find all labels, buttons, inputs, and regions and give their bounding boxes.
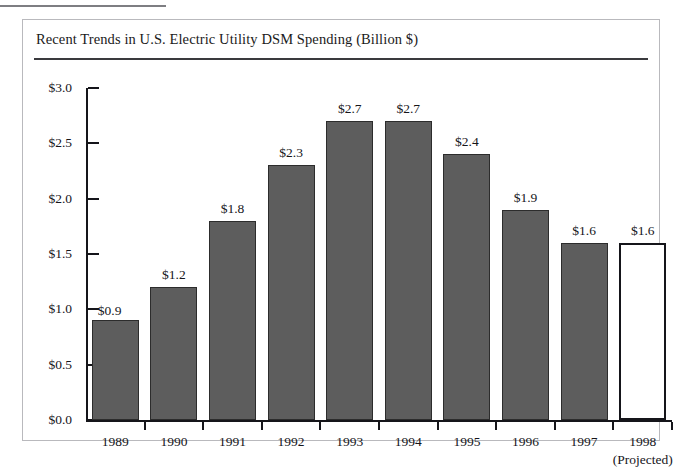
bar-1995 bbox=[443, 154, 490, 420]
bar-value-1996: $1.9 bbox=[514, 190, 538, 206]
y-axis-label: $0.5 bbox=[48, 357, 72, 373]
plot-area: $3.0$2.5$2.0$1.5$1.0$0.5$0.0 $0.9$1.2$1.… bbox=[86, 88, 672, 422]
figure-title: Recent Trends in U.S. Electric Utility D… bbox=[36, 31, 418, 48]
x-axis-label-year: 1992 bbox=[278, 434, 305, 449]
bar-1993 bbox=[326, 121, 373, 420]
header-rule bbox=[0, 5, 166, 7]
bar-1996 bbox=[502, 210, 549, 420]
x-axis-label-year: 1991 bbox=[219, 434, 246, 449]
x-axis-label-year: 1998 bbox=[629, 434, 656, 449]
x-axis-label-1992: 1992 bbox=[278, 434, 305, 450]
x-axis-tick bbox=[437, 422, 439, 430]
x-axis-label-year: 1993 bbox=[336, 434, 363, 449]
y-axis-tick bbox=[88, 142, 99, 144]
y-axis-label: $1.0 bbox=[48, 301, 72, 317]
x-axis-label-1994: 1994 bbox=[395, 434, 422, 450]
x-axis-tick bbox=[495, 422, 497, 430]
x-axis-label-1991: 1991 bbox=[219, 434, 246, 450]
bar-1994 bbox=[385, 121, 432, 420]
x-axis-label-year: 1995 bbox=[453, 434, 480, 449]
bar-value-1994: $2.7 bbox=[396, 101, 420, 117]
y-axis-tick bbox=[88, 87, 99, 89]
bar-1991 bbox=[209, 221, 256, 420]
y-axis-label: $1.5 bbox=[48, 246, 72, 262]
bar-value-1995: $2.4 bbox=[455, 134, 479, 150]
bar-value-1989: $0.9 bbox=[98, 303, 122, 319]
x-axis-label-1989: 1989 bbox=[102, 434, 129, 450]
y-axis-label: $3.0 bbox=[48, 80, 72, 96]
x-axis-tick bbox=[612, 422, 614, 430]
x-axis-tick bbox=[144, 422, 146, 430]
bar-1997 bbox=[561, 243, 608, 420]
x-axis-tick bbox=[554, 422, 556, 430]
x-axis-label-year: 1996 bbox=[512, 434, 539, 449]
y-axis-tick bbox=[88, 253, 99, 255]
bar-1998 bbox=[619, 243, 666, 420]
bar-value-1997: $1.6 bbox=[572, 223, 596, 239]
x-axis-label-year: 1994 bbox=[395, 434, 422, 449]
y-axis-label: $2.5 bbox=[48, 135, 72, 151]
x-axis-tick bbox=[261, 422, 263, 430]
x-axis-tick bbox=[202, 422, 204, 430]
x-axis-label-1997: 1997 bbox=[571, 434, 598, 450]
bar-value-1992: $2.3 bbox=[279, 145, 303, 161]
title-underline bbox=[34, 58, 648, 60]
y-axis-tick bbox=[88, 198, 99, 200]
bar-value-1998: $1.6 bbox=[631, 223, 655, 239]
bar-value-1991: $1.8 bbox=[221, 201, 245, 217]
x-axis-label-year: 1990 bbox=[160, 434, 187, 449]
y-axis-label: $0.0 bbox=[48, 412, 72, 428]
x-axis-label-note: (Projected) bbox=[613, 452, 673, 468]
bar-1992 bbox=[268, 165, 315, 420]
x-axis-label-year: 1989 bbox=[102, 434, 129, 449]
bar-value-1990: $1.2 bbox=[162, 267, 186, 283]
bar-value-1993: $2.7 bbox=[338, 101, 362, 117]
y-axis-line bbox=[86, 88, 88, 422]
x-axis-label-1993: 1993 bbox=[336, 434, 363, 450]
x-axis-label-1995: 1995 bbox=[453, 434, 480, 450]
x-axis-tick bbox=[671, 422, 673, 430]
x-axis-tick bbox=[378, 422, 380, 430]
x-axis-label-1996: 1996 bbox=[512, 434, 539, 450]
x-axis-tick bbox=[319, 422, 321, 430]
figure-container: Recent Trends in U.S. Electric Utility D… bbox=[22, 19, 660, 441]
x-axis-label-1998: 1998(Projected) bbox=[613, 434, 673, 468]
x-axis-label-year: 1997 bbox=[571, 434, 598, 449]
bar-1990 bbox=[150, 287, 197, 420]
bar-1989 bbox=[92, 320, 139, 420]
x-axis-label-1990: 1990 bbox=[160, 434, 187, 450]
y-axis-label: $2.0 bbox=[48, 191, 72, 207]
